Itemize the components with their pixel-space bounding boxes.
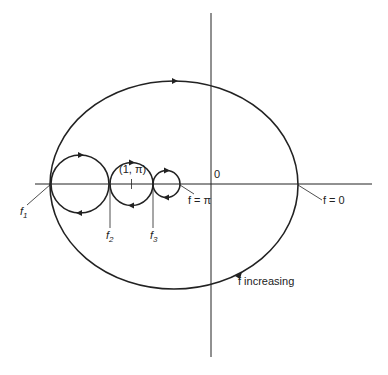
arrow-circle2-bottom [128, 203, 134, 209]
f3-label: f3 [150, 229, 158, 244]
point-label: (1, π) [119, 163, 146, 175]
outer-ellipse [50, 81, 298, 289]
arrow-circle1-bottom [76, 210, 82, 216]
arrow-circle3-bottom [163, 195, 169, 201]
origin-label: 0 [214, 168, 220, 180]
f-zero-label: f = 0 [323, 194, 345, 206]
f-pi-label: f = π [188, 194, 211, 206]
f1-leader [27, 184, 51, 205]
f-increasing-label: f increasing [238, 275, 294, 287]
arrow-circle1-top [78, 152, 84, 158]
diagram-canvas [0, 0, 388, 375]
arrow-circle3-top [164, 168, 170, 174]
f0-leader [298, 185, 322, 200]
f2-label: f2 [106, 229, 114, 244]
fpi-leader [180, 185, 194, 194]
arrow-ellipse-top [172, 78, 178, 84]
f1-label: f1 [20, 205, 28, 220]
